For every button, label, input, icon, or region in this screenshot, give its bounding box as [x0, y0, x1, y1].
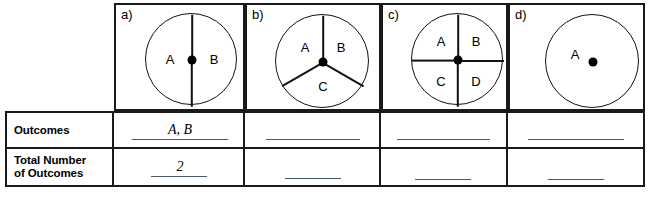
spinner-cell-b: b) A B C: [245, 3, 381, 111]
answer-cell-total-a[interactable]: 2: [114, 149, 245, 185]
spinner-label-c-B: B: [472, 35, 481, 49]
spinner-label-a-A: A: [166, 53, 175, 67]
column-letter-d: d): [515, 7, 527, 22]
spinner-label-b-C: C: [318, 80, 327, 94]
spinner-divider-a-1: [191, 15, 193, 61]
column-letter-a: a): [121, 7, 133, 22]
spinner-divider-c-4: [412, 60, 458, 62]
spinner-label-b-A: A: [301, 41, 310, 55]
row-header-total-outcomes: Total Number of Outcomes: [7, 149, 114, 185]
answer-blank-outcomes-b[interactable]: [266, 139, 360, 140]
column-letter-b: b): [252, 7, 264, 22]
spinner-circle-b: A B C: [275, 14, 369, 108]
row-header-outcomes-label: Outcomes: [14, 124, 69, 137]
worksheet-sheet: a) A B b) A B C: [0, 0, 650, 197]
spinner-cell-c: c) A B C D: [381, 3, 508, 111]
spinner-hub-b: [319, 58, 328, 67]
row-header-total-line2: of Outcomes: [14, 167, 83, 179]
answer-blank-total-b[interactable]: [285, 178, 341, 179]
answer-cell-outcomes-d[interactable]: [508, 113, 643, 147]
spinner-hub-d: [589, 58, 598, 67]
answer-blank-total-a[interactable]: [151, 176, 207, 177]
answer-blank-total-d[interactable]: [548, 179, 604, 180]
spinner-divider-c-1: [457, 15, 459, 61]
column-letter-c: c): [388, 7, 399, 22]
spinner-label-b-B: B: [337, 41, 346, 55]
spinner-divider-b-3: [282, 62, 324, 87]
spinner-label-c-D: D: [471, 75, 480, 89]
answer-blank-total-c[interactable]: [415, 179, 471, 180]
table-row-outcomes: Outcomes A, B: [7, 113, 643, 149]
answer-text-outcomes-a: A, B: [168, 122, 192, 137]
spinner-label-c-C: C: [436, 75, 445, 89]
spinner-divider-a-2: [191, 61, 193, 107]
spinner-circle-d: A: [545, 14, 639, 108]
spinner-cell-d: d) A: [508, 3, 645, 111]
spinner-cell-a: a) A B: [114, 3, 245, 111]
answers-table: Outcomes A, B Total: [5, 111, 645, 187]
answer-text-total-a: 2: [177, 159, 184, 174]
spinner-label-a-B: B: [210, 53, 219, 67]
spinner-divider-c-3: [458, 60, 504, 62]
spinner-circle-a: A B: [145, 13, 237, 105]
answer-cell-outcomes-a[interactable]: A, B: [114, 113, 245, 147]
answer-cell-outcomes-c[interactable]: [381, 113, 508, 147]
answer-cell-total-d[interactable]: [508, 149, 643, 185]
row-header-total-line1: Total Number: [14, 154, 86, 166]
spinner-circle-c: A B C D: [411, 13, 503, 105]
answer-cell-outcomes-b[interactable]: [245, 113, 381, 147]
spinner-row: a) A B b) A B C: [5, 3, 645, 111]
spinner-hub-a: [188, 56, 197, 65]
answer-cell-total-b[interactable]: [245, 149, 381, 185]
answer-blank-outcomes-a[interactable]: [132, 139, 228, 140]
spinner-divider-b-1: [322, 16, 324, 63]
table-row-total-outcomes: Total Number of Outcomes 2: [7, 149, 643, 185]
spinner-divider-b-2: [323, 62, 365, 87]
spinner-label-c-A: A: [437, 35, 446, 49]
answer-cell-total-c[interactable]: [381, 149, 508, 185]
spinner-divider-c-2: [457, 61, 459, 107]
row-header-total-outcomes-label: Total Number of Outcomes: [14, 154, 86, 180]
row-header-outcomes: Outcomes: [7, 113, 114, 147]
spinner-label-d-A: A: [571, 48, 580, 62]
spinner-hub-c: [454, 56, 463, 65]
answer-blank-outcomes-d[interactable]: [528, 139, 624, 140]
answer-blank-outcomes-c[interactable]: [397, 139, 490, 140]
